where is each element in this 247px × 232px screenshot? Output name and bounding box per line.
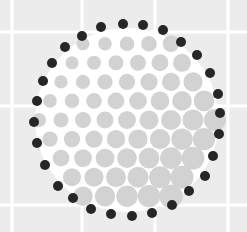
boundary-dot xyxy=(118,19,128,29)
inner-dot xyxy=(171,128,192,149)
inner-dot xyxy=(183,72,202,91)
inner-dot xyxy=(74,149,92,167)
boundary-dot xyxy=(184,186,194,196)
inner-dot xyxy=(109,55,124,70)
inner-dot xyxy=(65,94,80,109)
inner-dot xyxy=(129,92,147,110)
boundary-dot xyxy=(86,204,96,214)
boundary-dot xyxy=(200,171,210,181)
boundary-dot xyxy=(60,42,70,52)
inner-dot xyxy=(140,73,157,90)
inner-dot xyxy=(116,186,137,207)
inner-dot xyxy=(128,167,149,188)
inner-dot xyxy=(76,75,90,89)
inner-dot xyxy=(75,112,91,128)
inner-dot xyxy=(173,54,191,72)
inner-dot xyxy=(97,112,114,129)
inner-dot xyxy=(193,128,215,150)
inner-dot xyxy=(194,91,215,112)
boundary-dot xyxy=(47,58,57,68)
inner-dot xyxy=(183,110,204,131)
inner-dot xyxy=(42,131,57,146)
boundary-dot xyxy=(38,76,48,86)
inner-dot xyxy=(182,147,205,170)
inner-dot xyxy=(150,129,170,149)
inner-dot xyxy=(130,55,146,71)
boundary-dot xyxy=(138,20,148,30)
inner-dot xyxy=(87,56,101,70)
inner-dot xyxy=(54,75,67,88)
boundary-dot xyxy=(167,200,177,210)
inner-dot xyxy=(86,93,102,109)
boundary-dot xyxy=(96,22,106,32)
inner-dot xyxy=(54,113,69,128)
boundary-dot xyxy=(32,96,42,106)
boundary-dot xyxy=(213,89,223,99)
inner-dot xyxy=(117,148,137,168)
inner-dot xyxy=(119,74,135,90)
boundary-dot xyxy=(68,193,78,203)
boundary-dot xyxy=(176,37,186,47)
inner-dot xyxy=(152,54,169,71)
boundary-dot xyxy=(106,209,116,219)
inner-dot xyxy=(140,111,159,130)
inner-dot xyxy=(64,131,80,147)
boundary-dot xyxy=(192,50,202,60)
boundary-dot xyxy=(208,151,218,161)
boundary-dot xyxy=(32,138,42,148)
inner-dot xyxy=(43,94,57,108)
inner-dot xyxy=(160,147,182,169)
boundary-dot xyxy=(53,181,63,191)
inner-dot xyxy=(149,166,171,188)
inner-dot xyxy=(172,91,192,111)
inner-dot xyxy=(139,148,160,169)
boundary-dot xyxy=(147,208,157,218)
inner-dot xyxy=(85,130,102,147)
inner-dot xyxy=(66,56,79,69)
inner-dot xyxy=(107,130,125,148)
boundary-dot xyxy=(127,211,137,221)
inner-dot xyxy=(63,168,81,186)
inner-dot xyxy=(162,73,180,91)
boundary-dot xyxy=(77,31,87,41)
inner-dot xyxy=(161,110,181,130)
inner-dot xyxy=(118,111,136,129)
inner-dot xyxy=(95,186,115,206)
inner-dot xyxy=(53,150,70,167)
boundary-dot xyxy=(40,160,50,170)
inner-dot xyxy=(120,37,135,52)
inner-dot xyxy=(151,92,170,111)
inner-dot xyxy=(138,185,160,207)
boundary-dot xyxy=(215,108,225,118)
boundary-dot xyxy=(214,129,224,139)
inner-dot xyxy=(97,74,112,89)
boundary-dot xyxy=(29,117,39,127)
inner-dot xyxy=(108,93,125,110)
inner-dot xyxy=(85,168,104,187)
circle-packing-illustration xyxy=(0,0,247,232)
boundary-dot xyxy=(158,25,168,35)
inner-dot xyxy=(128,129,147,148)
inner-dot xyxy=(98,37,112,51)
inner-dot xyxy=(106,167,126,187)
boundary-dot xyxy=(205,68,215,78)
inner-dot xyxy=(96,149,115,168)
inner-dot xyxy=(141,36,157,52)
